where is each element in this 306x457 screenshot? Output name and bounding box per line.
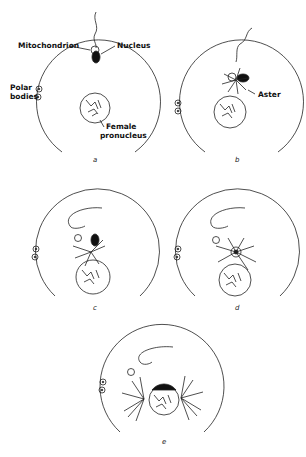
- panel-e-egg: [99, 324, 224, 432]
- fertilization-diagram: [0, 0, 306, 457]
- panel-b-egg: [175, 28, 304, 152]
- polar-bodies-label-2: bodies: [10, 93, 38, 101]
- mitochondrion-label: Mitochondrion: [18, 42, 79, 50]
- panel-d-egg: [174, 189, 300, 296]
- panel-label-c: c: [93, 304, 97, 312]
- panel-label-e: e: [162, 438, 166, 446]
- panel-label-d: d: [235, 304, 239, 312]
- female-pronucleus-label-1: Female: [106, 123, 136, 131]
- panel-label-a: a: [93, 156, 97, 164]
- panel-label-b: b: [235, 156, 239, 164]
- female-pronucleus-label-2: pronucleus: [100, 132, 147, 140]
- panel-c-egg: [32, 189, 160, 296]
- aster-label: Aster: [258, 91, 281, 99]
- polar-bodies-label-1: Polar: [10, 84, 32, 92]
- nucleus-label: Nucleus: [117, 42, 151, 50]
